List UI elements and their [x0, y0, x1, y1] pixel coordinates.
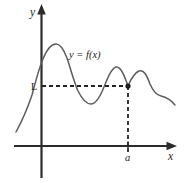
y-axis-label: y [29, 6, 36, 19]
limit-label: L [31, 81, 37, 92]
x-axis [14, 142, 177, 151]
limit-point [125, 83, 130, 88]
limit-graph-figure: y x y = f(x) L a [0, 0, 185, 183]
x-axis-label: x [167, 150, 174, 162]
y-axis [37, 4, 46, 178]
a-label: a [125, 152, 130, 163]
function-label: y = f(x) [68, 49, 101, 61]
